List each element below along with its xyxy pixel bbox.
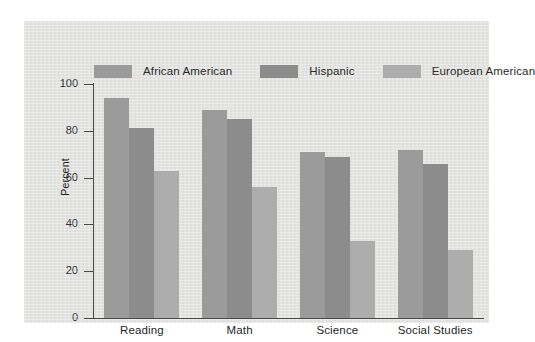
bar xyxy=(423,164,448,318)
y-axis-tick xyxy=(84,271,93,272)
y-axis-tick-label: 80 xyxy=(38,124,78,136)
bar xyxy=(252,187,277,318)
bar xyxy=(154,171,179,318)
x-axis-line xyxy=(93,318,484,319)
x-axis-label: Social Studies xyxy=(386,324,484,336)
legend-swatch-icon xyxy=(260,65,298,78)
chart-legend: African AmericanHispanicEuropean America… xyxy=(94,61,489,81)
bar-group xyxy=(202,84,277,318)
bar xyxy=(104,98,129,318)
y-axis-tick-label: 100 xyxy=(38,77,78,89)
bar xyxy=(202,110,227,318)
legend-label: African American xyxy=(143,65,232,77)
legend-label: Hispanic xyxy=(309,65,354,77)
y-axis-line xyxy=(93,83,94,319)
x-axis-label: Reading xyxy=(93,324,191,336)
x-axis-label: Math xyxy=(191,324,289,336)
bar xyxy=(300,152,325,318)
bar xyxy=(398,150,423,318)
y-axis-tick-label: 60 xyxy=(38,171,78,183)
bar xyxy=(350,241,375,318)
y-axis-tick-label: 0 xyxy=(38,311,78,323)
bar-group xyxy=(300,84,375,318)
bar xyxy=(129,128,154,318)
y-axis-tick xyxy=(84,131,93,132)
y-axis-tick xyxy=(84,178,93,179)
y-axis-tick-label: 40 xyxy=(38,217,78,229)
legend-label: European American xyxy=(432,65,535,77)
legend-swatch-icon xyxy=(383,65,421,78)
bar xyxy=(448,250,473,318)
bar xyxy=(325,157,350,318)
bar xyxy=(227,119,252,318)
x-axis-label: Science xyxy=(289,324,387,336)
y-axis-title: Percent xyxy=(59,132,71,222)
plot-area xyxy=(93,84,483,318)
bar-group xyxy=(104,84,179,318)
y-axis-tick xyxy=(84,224,93,225)
legend-item: African American xyxy=(94,65,232,78)
legend-swatch-icon xyxy=(94,65,132,78)
legend-item: Hispanic xyxy=(260,65,354,78)
y-axis-tick xyxy=(84,318,93,319)
bar-group xyxy=(398,84,473,318)
y-axis-tick-label: 20 xyxy=(38,264,78,276)
chart-panel: African AmericanHispanicEuropean America… xyxy=(24,21,489,323)
legend-item: European American xyxy=(383,65,535,78)
y-axis-tick xyxy=(84,84,93,85)
